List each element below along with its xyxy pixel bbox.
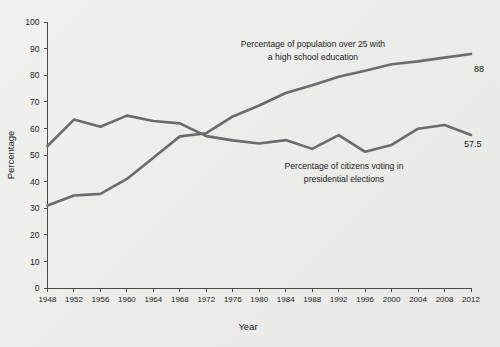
series-line-voting: [48, 116, 472, 152]
x-tick-label: 1968: [171, 295, 189, 304]
x-tick-label: 1984: [277, 295, 295, 304]
endpoint-label-education: 88: [474, 64, 484, 74]
y-tick-label: 90: [30, 44, 40, 54]
x-axis-title: Year: [238, 321, 257, 332]
line-chart-svg: 0102030405060708090100 19481952195619601…: [0, 0, 500, 347]
y-tick-label: 60: [30, 124, 40, 134]
y-tick-label: 30: [30, 203, 40, 213]
x-tick-label: 1992: [330, 295, 348, 304]
x-tick-label: 2004: [409, 295, 427, 304]
y-tick-label: 20: [30, 230, 40, 240]
series-line-education: [48, 54, 472, 206]
y-tick-label: 40: [30, 177, 40, 187]
x-tick-label: 1952: [65, 295, 83, 304]
chart-figure: 0102030405060708090100 19481952195619601…: [0, 0, 500, 347]
endpoint-label-voting: 57.5: [464, 139, 482, 149]
voting-annotation-line1: Percentage of citizens voting in: [285, 161, 404, 171]
x-tick-label: 2012: [462, 295, 480, 304]
education-annotation-line2: a high school education: [268, 52, 359, 62]
x-tick-label: 1964: [144, 295, 162, 304]
y-tick-label: 10: [30, 257, 40, 267]
education-annotation-line1: Percentage of population over 25 with: [241, 39, 386, 49]
x-tick-label: 1980: [250, 295, 268, 304]
x-tick-label: 2000: [383, 295, 401, 304]
voting-annotation-line2: presidential elections: [304, 174, 384, 184]
x-tick-label: 1948: [39, 295, 57, 304]
x-tick-label: 1972: [197, 295, 215, 304]
x-tick-label: 1996: [356, 295, 374, 304]
x-tick-label: 1988: [303, 295, 321, 304]
x-tick-label: 1956: [92, 295, 110, 304]
y-tick-label: 0: [35, 283, 40, 293]
x-axis-tick-labels: 1948195219561960196419681972197619801984…: [39, 295, 481, 304]
x-tick-label: 1960: [118, 295, 136, 304]
x-tick-label: 1976: [224, 295, 242, 304]
y-tick-label: 80: [30, 70, 40, 80]
y-tick-label: 50: [30, 150, 40, 160]
y-axis-tick-labels: 0102030405060708090100: [25, 17, 39, 293]
y-tick-label: 100: [25, 17, 39, 27]
y-axis-title: Percentage: [5, 131, 16, 180]
y-axis-ticks: [44, 22, 48, 288]
y-tick-label: 70: [30, 97, 40, 107]
x-tick-label: 2008: [436, 295, 454, 304]
